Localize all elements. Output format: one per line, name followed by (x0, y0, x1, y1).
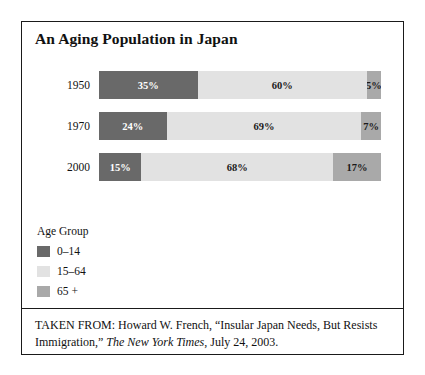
bar-track: 35%60%5% (99, 71, 381, 99)
bar-track: 24%69%7% (99, 112, 381, 140)
legend-item-label: 65 + (57, 285, 78, 297)
source-note: TAKEN FROM: Howard W. French, “Insular J… (35, 317, 391, 351)
bar-segment-label: 5% (367, 80, 381, 91)
legend-item: 15–64 (37, 261, 237, 281)
bar-segment: 60% (198, 71, 367, 99)
bar-segment: 69% (167, 112, 362, 140)
legend-item: 0–14 (37, 241, 237, 261)
bar-row-label: 1970 (22, 112, 90, 140)
figure-frame: An Aging Population in Japan 195035%60%5… (21, 21, 404, 355)
stacked-bar-chart: 195035%60%5%197024%69%7%200015%68%17% (22, 71, 405, 206)
legend-title: Age Group (37, 225, 237, 237)
bar-segment-label: 24% (122, 121, 143, 132)
source-suffix: , July 24, 2003. (204, 335, 278, 349)
legend-item: 65 + (37, 281, 237, 301)
bar-row: 200015%68%17% (22, 153, 405, 181)
legend-item-label: 0–14 (57, 245, 80, 257)
bar-segment-label: 35% (138, 80, 159, 91)
bar-segment: 5% (367, 71, 381, 99)
source-publication: The New York Times (106, 335, 204, 349)
bar-segment: 68% (141, 153, 333, 181)
legend-item-label: 15–64 (57, 265, 86, 277)
bar-row-label: 2000 (22, 153, 90, 181)
bar-segment: 17% (333, 153, 381, 181)
bar-segment: 15% (99, 153, 141, 181)
bar-segment-label: 7% (363, 121, 379, 132)
legend-item-list: 0–1415–6465 + (37, 241, 237, 301)
bar-segment-label: 69% (253, 121, 274, 132)
legend-swatch-icon (37, 286, 50, 297)
bar-segment: 7% (361, 112, 381, 140)
legend-swatch-icon (37, 246, 50, 257)
bar-track: 15%68%17% (99, 153, 381, 181)
bar-segment-label: 15% (110, 162, 131, 173)
bar-segment: 35% (99, 71, 198, 99)
bar-segment-label: 17% (347, 162, 368, 173)
bar-row-label: 1950 (22, 71, 90, 99)
bar-segment-label: 60% (272, 80, 293, 91)
bar-row: 197024%69%7% (22, 112, 405, 140)
source-divider (22, 308, 403, 309)
bar-segment-label: 68% (227, 162, 248, 173)
bar-row: 195035%60%5% (22, 71, 405, 99)
chart-legend: Age Group 0–1415–6465 + (37, 225, 237, 301)
legend-swatch-icon (37, 266, 50, 277)
chart-title: An Aging Population in Japan (35, 30, 238, 48)
bar-segment: 24% (99, 112, 167, 140)
